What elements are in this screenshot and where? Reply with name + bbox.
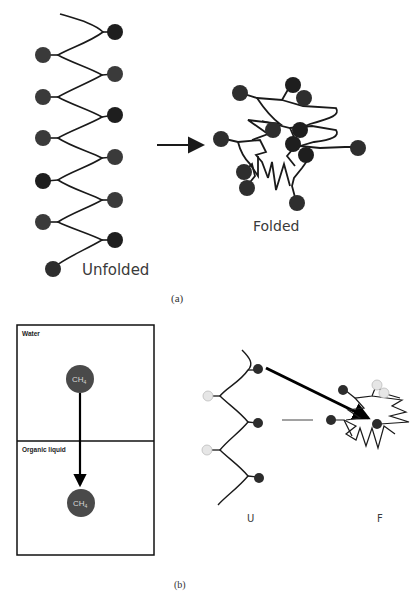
- residue-bead: [232, 85, 248, 101]
- residue-bead: [107, 232, 123, 248]
- residue-bead: [285, 77, 301, 93]
- residue-bead: [107, 24, 123, 40]
- molecule-formula: CH: [72, 375, 84, 384]
- residue-bead: [289, 195, 305, 211]
- residue-bead: [35, 47, 51, 63]
- residue-bead: [296, 90, 312, 106]
- folded-chain-b: [332, 386, 409, 448]
- residue-bead: [107, 107, 123, 123]
- hydrophilic-bead: [372, 380, 382, 390]
- residue-bead: [45, 261, 61, 277]
- hydrophobic-transfer-arrow: [266, 368, 368, 418]
- unfolded-label: Unfolded: [82, 261, 149, 279]
- hydrophobic-bead: [253, 418, 263, 428]
- caption-a: (a): [171, 292, 184, 305]
- hydrophilic-bead: [202, 445, 212, 455]
- hydrophobic-bead: [254, 473, 264, 483]
- residue-bead: [35, 130, 51, 146]
- hydrophilic-bead: [203, 391, 213, 401]
- figure-canvas: Unfolded: [0, 0, 420, 605]
- organic-phase-label: Organic liquid: [22, 446, 66, 454]
- folded-beads: [213, 77, 366, 211]
- hydrophobic-bead: [338, 385, 348, 395]
- residue-bead: [236, 164, 252, 180]
- folded-beads-b: [326, 380, 389, 429]
- folded-label-f: F: [377, 513, 383, 524]
- residue-bead: [107, 66, 123, 82]
- molecule-formula: CH: [73, 499, 85, 508]
- residue-bead: [350, 140, 366, 156]
- residue-bead: [35, 89, 51, 105]
- unfolded-chain: [35, 14, 123, 277]
- hydrophobic-bead: [372, 419, 382, 429]
- panel-a: Unfolded: [35, 14, 366, 305]
- hydrophobic-bead: [326, 415, 336, 425]
- residue-bead: [292, 122, 308, 138]
- residue-bead: [285, 136, 301, 152]
- water-phase-label: Water: [22, 330, 40, 337]
- hydrophobic-bead: [253, 364, 263, 374]
- panel-b: Water Organic liquid CH4 CH4: [17, 325, 409, 591]
- caption-b: (b): [174, 579, 186, 591]
- residue-bead: [35, 214, 51, 230]
- phase-box: Water Organic liquid CH4 CH4: [17, 325, 154, 555]
- residue-bead: [107, 149, 123, 165]
- unfolded-chain-b: [202, 350, 264, 505]
- residue-bead: [35, 173, 51, 189]
- residue-bead: [265, 122, 281, 138]
- residue-bead: [239, 180, 255, 196]
- residue-bead: [107, 192, 123, 208]
- folded-label: Folded: [253, 218, 299, 234]
- unfolded-label-u: U: [247, 513, 254, 524]
- residue-bead: [298, 147, 314, 163]
- residue-bead: [213, 131, 229, 147]
- hydrophilic-bead: [379, 388, 389, 398]
